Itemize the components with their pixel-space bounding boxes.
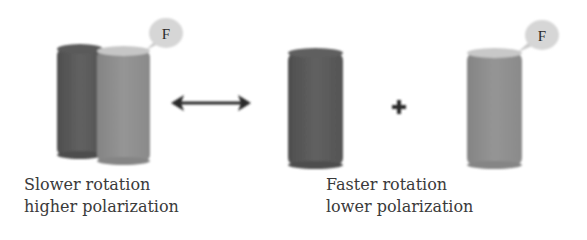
light-cylinder-icon	[97, 46, 150, 165]
dark-cylinder-icon	[57, 44, 103, 159]
free-dark-cylinder-icon	[288, 48, 343, 169]
free-light-cylinder-icon	[467, 48, 522, 169]
right-caption-line2: lower polarization	[326, 196, 473, 218]
fluorophore-label: F	[538, 28, 546, 44]
left-caption: Slower rotation higher polarization	[24, 174, 179, 218]
left-caption-line1: Slower rotation	[24, 174, 179, 196]
left-caption-line2: higher polarization	[24, 196, 179, 218]
fluorophore-label: F	[162, 26, 170, 42]
double-arrow-icon	[171, 95, 251, 111]
right-caption: Faster rotation lower polarization	[326, 174, 473, 218]
plus-icon	[392, 100, 406, 114]
right-caption-line1: Faster rotation	[326, 174, 473, 196]
